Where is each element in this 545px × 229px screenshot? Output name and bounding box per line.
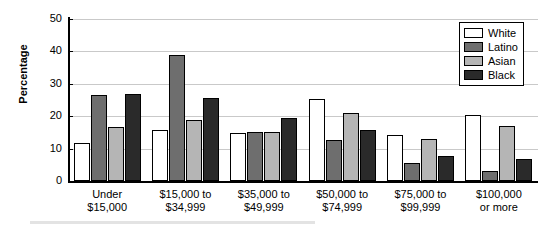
bar-white [74,143,90,181]
bar-group [68,19,146,181]
y-tick-mark [68,84,73,85]
bar-black [516,159,532,181]
x-category-label-line: $35,000 to [225,188,303,201]
legend-item-latino: Latino [464,40,518,54]
x-category-label-line: Under [68,188,146,201]
bar-white [465,115,481,181]
bar-chart: Percentage 01020304050 Under$15,000$15,0… [0,0,545,229]
legend-item-white: White [464,26,518,40]
x-category-label-line: $15,000 [68,201,146,214]
bar-black [360,130,376,181]
legend-label-white: White [488,27,516,39]
bar-white [387,135,403,181]
x-category-label: $75,000 to$99,999 [381,188,459,214]
bar-latino [169,55,185,181]
y-tick-mark [68,19,73,20]
bar-black [125,94,141,181]
bar-black [203,98,219,181]
y-tick-label: 10 [34,143,62,154]
legend-swatch-black-icon [464,70,483,80]
x-category-label-line: $50,000 to [303,188,381,201]
bar-asian [499,126,515,181]
y-tick-mark [68,181,73,182]
bar-latino [326,140,342,181]
bar-latino [482,171,498,181]
bar-latino [247,132,263,181]
y-axis-title: Percentage [17,9,29,139]
bar-group [146,19,224,181]
bar-asian [186,120,202,181]
legend-swatch-latino-icon [464,42,483,52]
legend-label-asian: Asian [488,55,516,67]
legend-item-black: Black [464,68,518,82]
bar-asian [343,113,359,181]
bar-group [303,19,381,181]
legend-swatch-asian-icon [464,56,483,66]
x-category-label-line: $15,000 to [146,188,224,201]
bar-asian [108,127,124,181]
y-tick-mark [68,116,73,117]
bar-white [309,99,325,181]
legend-item-asian: Asian [464,54,518,68]
y-tick-label: 0 [34,175,62,186]
y-tick-mark [68,149,73,150]
bar-white [152,130,168,181]
y-tick-label: 20 [34,110,62,121]
legend-label-black: Black [488,69,515,81]
y-tick-label: 40 [34,45,62,56]
bar-group [225,19,303,181]
x-category-label: $50,000 to$74,999 [303,188,381,214]
bar-latino [404,163,420,181]
x-category-label: $35,000 to$49,999 [225,188,303,214]
x-category-label: Under$15,000 [68,188,146,214]
x-category-label-line: or more [460,201,538,214]
y-tick-label: 50 [34,13,62,24]
bar-white [230,133,246,181]
x-category-label-line: $99,999 [381,201,459,214]
x-category-label-line: $34,999 [146,201,224,214]
bar-latino [91,95,107,181]
legend-swatch-white-icon [464,28,483,38]
x-axis-line [68,181,538,183]
bar-black [281,118,297,181]
legend-label-latino: Latino [488,41,518,53]
x-category-label-line: $100,000 [460,188,538,201]
x-category-label-line: $75,000 to [381,188,459,201]
legend: White Latino Asian Black [459,22,524,86]
bar-asian [264,132,280,181]
x-category-label: $15,000 to$34,999 [146,188,224,214]
x-category-label-line: $74,999 [303,201,381,214]
x-category-label-line: $49,999 [225,201,303,214]
x-category-label: $100,000or more [460,188,538,214]
scan-artifact [30,221,315,224]
bar-black [438,156,454,181]
bar-group [381,19,459,181]
y-tick-mark [68,51,73,52]
y-tick-label: 30 [34,78,62,89]
bar-asian [421,139,437,181]
